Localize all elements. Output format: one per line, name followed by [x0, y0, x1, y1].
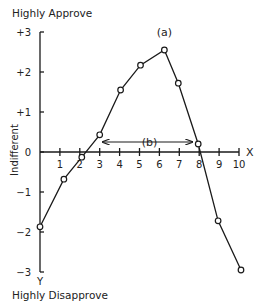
- data-point: [195, 141, 201, 147]
- x-tick-label: 8: [196, 159, 202, 170]
- x-tick-label: 10: [233, 159, 246, 170]
- data-point: [238, 267, 244, 273]
- x-tick-label: 9: [216, 159, 222, 170]
- top-label: Highly Approve: [12, 7, 92, 19]
- y-tick-label: −2: [16, 227, 31, 238]
- x-tick-label: 4: [116, 159, 122, 170]
- bottom-label: Highly Disapprove: [12, 289, 108, 301]
- y-tick-label: +3: [16, 27, 31, 38]
- x-tick-label: 6: [156, 159, 162, 170]
- x-tick-label: 7: [176, 159, 182, 170]
- annotation-a: (a): [157, 26, 172, 39]
- y-axis-label: Y: [36, 276, 44, 287]
- data-point: [138, 62, 144, 68]
- x-tick-label: 5: [136, 159, 142, 170]
- data-point: [97, 132, 103, 138]
- y-tick-label: −3: [16, 267, 31, 278]
- x-axis-label: X: [246, 146, 254, 159]
- data-point: [162, 47, 168, 53]
- x-tick-label: 1: [57, 159, 63, 170]
- y-tick-label: +1: [16, 107, 31, 118]
- y-tick-label: 0: [25, 147, 31, 158]
- x-ticks: 12345678910: [57, 148, 246, 170]
- x-tick-label: 3: [97, 159, 103, 170]
- annotation-b: (b): [142, 136, 158, 149]
- data-point: [37, 224, 43, 230]
- data-point: [61, 176, 67, 182]
- data-point: [118, 87, 124, 93]
- chart: Highly Approve Highly Disapprove Indiffe…: [0, 0, 266, 302]
- data-point: [176, 80, 182, 86]
- data-point: [215, 218, 221, 224]
- y-mid-label: Indifferent: [9, 124, 20, 176]
- y-tick-label: +2: [16, 67, 31, 78]
- y-tick-label: −1: [16, 187, 31, 198]
- data-point: [79, 154, 85, 160]
